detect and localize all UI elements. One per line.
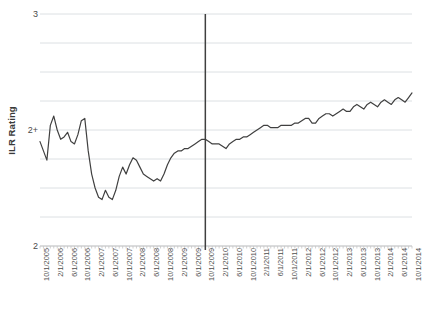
x-axis-tick-label: 2/1/2014	[387, 248, 395, 277]
x-axis-tick-label: 2/1/2009	[181, 248, 189, 277]
x-axis-tick-label: 10/1/2010	[250, 248, 258, 281]
x-axis-tick-label: 6/1/2008	[153, 248, 161, 277]
x-axis-tick-label: 6/1/2007	[112, 248, 120, 277]
x-axis-tick-label: 6/1/2013	[360, 248, 368, 277]
x-axis-tick-label: 10/1/2008	[167, 248, 175, 281]
y-axis-tick-labels: 32+2	[16, 0, 38, 311]
data-series-line	[40, 93, 412, 200]
x-axis-tick-label: 10/1/2005	[43, 248, 51, 281]
x-axis-tick-label: 10/1/2009	[208, 248, 216, 281]
x-axis-tick-label: 2/1/2008	[139, 248, 147, 277]
gridlines	[40, 14, 412, 246]
x-axis-tick-label: 6/1/2010	[236, 248, 244, 277]
x-axis-tick-label: 2/1/2007	[98, 248, 106, 277]
y-axis-tick-label: 2	[18, 241, 38, 251]
x-axis-tick-label: 10/1/2013	[374, 248, 382, 281]
plot-svg	[40, 14, 412, 246]
y-axis-tick-label: 3	[18, 9, 38, 19]
x-axis-tick-label: 2/1/2006	[57, 248, 65, 277]
x-axis-tick-label: 2/1/2013	[346, 248, 354, 277]
x-axis-tick-label: 10/1/2011	[291, 248, 299, 280]
y-axis-title: ILR Rating	[6, 106, 17, 155]
x-axis-tick-label: 10/1/2012	[332, 248, 340, 281]
x-axis-tick-label: 6/1/2006	[71, 248, 79, 277]
x-axis-tick-label: 2/1/2010	[222, 248, 230, 277]
y-axis-tick-label: 2+	[18, 125, 38, 135]
x-axis-tick-label: 10/1/2007	[126, 248, 134, 281]
x-axis-tick-label: 10/1/2014	[415, 248, 423, 281]
x-axis-labels: 10/1/20052/1/20066/1/200610/1/20062/1/20…	[40, 248, 412, 311]
x-axis-tick-label: 2/1/2011	[263, 248, 271, 276]
x-axis-tick-label: 6/1/2014	[401, 248, 409, 277]
ilr-rating-line-chart: ILR Rating 32+2 10/1/20052/1/20066/1/200…	[0, 0, 426, 311]
x-axis-tick-label: 6/1/2011	[277, 248, 285, 276]
x-axis-tick-label: 2/1/2012	[305, 248, 313, 277]
x-axis-tick-label: 6/1/2012	[319, 248, 327, 277]
x-axis-tick-label: 10/1/2006	[84, 248, 92, 281]
x-axis-tick-label: 6/1/2009	[195, 248, 203, 277]
plot-area	[40, 14, 412, 246]
